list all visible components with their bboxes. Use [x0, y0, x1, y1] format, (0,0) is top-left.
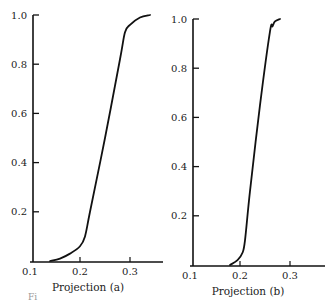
y-tick-label: 0.2	[11, 206, 27, 217]
x-tick-label: 0.1	[182, 270, 198, 281]
y-tick-label: 1.0	[11, 10, 27, 21]
y-tick-label: 0.6	[171, 112, 187, 123]
x-tick-label: 0.3	[122, 266, 138, 277]
y-tick-label: 0.4	[171, 161, 187, 172]
x-tick-label: 0.2	[72, 266, 88, 277]
x-tick-label: 0.2	[232, 270, 248, 281]
figure-canvas: 0.20.40.60.81.00.10.20.3Projection (a) 0…	[0, 0, 336, 303]
chart-panel-a: 0.20.40.60.81.00.10.20.3Projection (a)	[11, 10, 163, 294]
y-tick-label: 0.6	[11, 108, 27, 119]
x-tick-label: 0.3	[282, 270, 298, 281]
y-tick-label: 0.2	[171, 210, 187, 221]
x-tick-label: 0.1	[22, 266, 38, 277]
chart-panel-b: 0.20.40.60.81.00.10.20.3Projection (b)	[171, 14, 325, 298]
y-tick-label: 0.8	[11, 59, 27, 70]
data-curve	[230, 19, 280, 265]
figure-caption-fragment: Fi	[28, 292, 37, 302]
y-tick-label: 0.8	[171, 63, 187, 74]
data-curve	[50, 15, 150, 261]
y-tick-label: 0.4	[11, 157, 27, 168]
y-tick-label: 1.0	[171, 14, 187, 25]
x-axis-title: Projection (b)	[212, 285, 285, 297]
x-axis-title: Projection (a)	[52, 281, 124, 293]
